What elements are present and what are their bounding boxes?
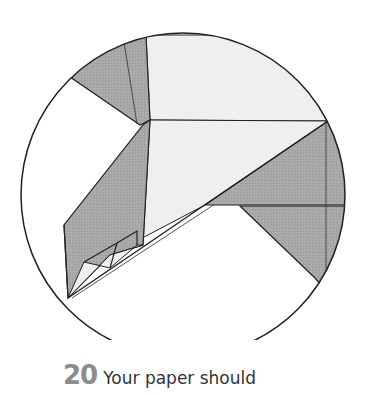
step-number: 20 [63,360,97,390]
step-text: Your paper should [103,368,256,388]
step-caption: 20 Your paper should [63,360,256,390]
origami-inset-diagram [0,0,368,340]
fold-layers [60,35,360,330]
top-left-shaded-flap [60,35,150,125]
upper-light-flap [146,35,360,121]
